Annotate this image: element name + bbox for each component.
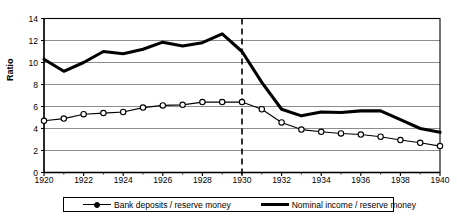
y-tick-label: 6 [20,103,38,112]
x-tick-label: 1938 [383,176,417,185]
x-axis-tick-labels: 1920 1922 1924 1926 1928 1930 1932 1934 … [0,176,457,190]
legend-label: Nominal income / reserve money [292,200,416,210]
data-point-marker [101,110,106,115]
legend-thick-line-icon [261,200,289,210]
data-point-marker [200,99,205,104]
data-point-marker [279,120,284,125]
data-point-marker [378,134,383,139]
x-tick-label: 1926 [146,176,180,185]
legend-item-nominal-income: Nominal income / reserve money [261,200,416,210]
data-point-marker [398,137,403,142]
data-point-marker [319,129,324,134]
data-point-marker [299,127,304,132]
y-tick-label: 8 [20,81,38,90]
x-tick-label: 1922 [67,176,101,185]
line-chart: Ratio 14 12 10 8 6 4 2 0 1920 1922 1924 … [0,0,457,222]
y-axis-title: Ratio [5,65,15,81]
y-tick-label: 4 [20,125,38,134]
y-axis [41,19,44,173]
legend-line-marker-icon [83,200,111,210]
x-tick-label: 1924 [106,176,140,185]
x-tick-label: 1936 [344,176,378,185]
legend-label: Bank deposits / reserve money [114,200,231,210]
data-point-marker [41,118,46,123]
data-point-marker [140,105,145,110]
data-point-marker [180,102,185,107]
data-point-marker [358,132,363,137]
data-point-marker [220,99,225,104]
y-tick-label: 2 [20,147,38,156]
data-point-marker [81,112,86,117]
chart-legend: Bank deposits / reserve money Nominal in… [63,197,394,212]
data-point-marker [121,109,126,114]
data-point-marker [338,131,343,136]
data-point-marker [437,143,442,148]
y-tick-label: 12 [20,37,38,46]
x-tick-label: 1934 [304,176,338,185]
legend-item-bank-deposits: Bank deposits / reserve money [83,200,231,210]
y-tick-label: 10 [20,59,38,68]
data-point-marker [160,103,165,108]
data-point-marker [259,107,264,112]
data-point-marker [418,140,423,145]
x-tick-label: 1932 [265,176,299,185]
x-tick-label: 1928 [185,176,219,185]
x-tick-label: 1940 [423,176,457,185]
y-tick-label: 14 [20,15,38,24]
data-point-marker [61,116,66,121]
x-tick-label: 1930 [225,176,259,185]
x-tick-label: 1920 [27,176,61,185]
data-point-marker [239,99,244,104]
